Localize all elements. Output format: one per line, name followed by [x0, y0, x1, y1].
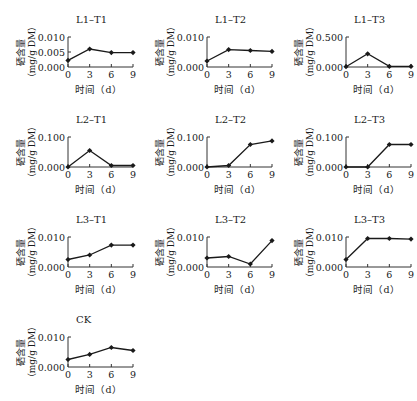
y-tick-label: 0.010 — [38, 332, 65, 343]
data-point-marker — [269, 49, 274, 54]
y-axis-label: 硒含量（mg/g DM） — [15, 322, 37, 382]
x-tick-label: 6 — [386, 269, 392, 280]
chart-title: L2–T3 — [354, 114, 385, 125]
svg-text:（mg/g DM）: （mg/g DM） — [166, 122, 176, 182]
svg-text:硒含量: 硒含量 — [293, 239, 304, 266]
y-tick-label: 0.000 — [38, 62, 65, 73]
x-tick-label: 9 — [269, 269, 275, 280]
chart-panel-l1-t2: L1–T20.0000.0100369时间（d）硒含量（mg/g DM） — [139, 0, 278, 100]
x-axis-label: 时间（d） — [75, 84, 121, 95]
chart-title: L1–T3 — [354, 14, 385, 25]
y-tick-label: 0.000 — [177, 262, 204, 273]
data-point-marker — [109, 243, 114, 248]
x-axis-label: 时间（d） — [353, 284, 399, 295]
y-tick-label: 0.000 — [316, 262, 343, 273]
chart-panel-l3-t1: L3–T10.0000.0100369时间（d）硒含量（mg/g DM） — [0, 200, 139, 300]
y-tick-label: 0.010 — [38, 232, 65, 243]
x-axis-label: 时间（d） — [353, 84, 399, 95]
data-point-marker — [408, 237, 413, 242]
x-tick-label: 0 — [204, 69, 210, 80]
data-point-marker — [204, 58, 209, 63]
data-line — [346, 54, 411, 67]
svg-text:硒含量: 硒含量 — [293, 139, 304, 166]
y-tick-label: 0.005 — [38, 47, 65, 58]
y-axis-label: 硒含量（mg/g DM） — [15, 22, 37, 82]
y-tick-label: 0.000 — [316, 162, 343, 173]
x-tick-label: 3 — [226, 269, 232, 280]
data-point-marker — [269, 138, 274, 143]
svg-text:硒含量: 硒含量 — [15, 239, 26, 266]
x-tick-label: 9 — [130, 69, 136, 80]
x-tick-label: 0 — [65, 369, 71, 380]
y-tick-label: 0.000 — [177, 162, 204, 173]
x-axis-label: 时间（d） — [214, 184, 260, 195]
data-line — [68, 151, 133, 168]
chart-title: L2–T2 — [215, 114, 246, 125]
chart-panel-l2-t1: L2–T10.0000.1000369时间（d）硒含量（mg/g DM） — [0, 100, 139, 200]
data-line — [207, 141, 272, 167]
data-line — [68, 348, 133, 360]
svg-text:硒含量: 硒含量 — [293, 39, 304, 66]
x-tick-label: 6 — [386, 169, 392, 180]
data-point-marker — [226, 254, 231, 259]
chart-title: L1–T1 — [76, 14, 107, 25]
x-tick-label: 0 — [343, 169, 349, 180]
chart-panel-l2-t2: L2–T20.0000.1000369时间（d）硒含量（mg/g DM） — [139, 100, 278, 200]
y-tick-label: 0.010 — [38, 32, 65, 43]
x-tick-label: 6 — [108, 169, 114, 180]
svg-text:（mg/g DM）: （mg/g DM） — [166, 222, 176, 282]
svg-text:（mg/g DM）: （mg/g DM） — [27, 322, 37, 382]
x-tick-label: 3 — [87, 69, 93, 80]
chart-panel-l1-t1: L1–T10.0000.0050.0100369时间（d）硒含量（mg/g DM… — [0, 0, 139, 100]
x-tick-label: 3 — [365, 69, 371, 80]
chart-panel-ck: CK0.0000.0100369时间（d）硒含量（mg/g DM） — [0, 300, 139, 400]
svg-text:硒含量: 硒含量 — [154, 139, 165, 166]
y-axis-label: 硒含量（mg/g DM） — [293, 22, 315, 82]
x-tick-label: 9 — [408, 169, 414, 180]
y-axis-label: 硒含量（mg/g DM） — [293, 222, 315, 282]
svg-text:硒含量: 硒含量 — [15, 339, 26, 366]
chart-title: L3–T1 — [76, 214, 107, 225]
svg-text:硒含量: 硒含量 — [154, 239, 165, 266]
data-point-marker — [109, 345, 114, 350]
x-tick-label: 9 — [130, 369, 136, 380]
chart-panel-l3-t2: L3–T20.0000.0100369时间（d）硒含量（mg/g DM） — [139, 200, 278, 300]
y-tick-label: 0.010 — [177, 232, 204, 243]
x-tick-label: 3 — [226, 169, 232, 180]
data-point-marker — [130, 243, 135, 248]
y-tick-label: 0.000 — [316, 62, 343, 73]
x-tick-label: 0 — [65, 69, 71, 80]
x-tick-label: 3 — [87, 169, 93, 180]
x-tick-label: 3 — [365, 169, 371, 180]
y-tick-label: 0.100 — [316, 132, 343, 143]
svg-text:（mg/g DM）: （mg/g DM） — [27, 22, 37, 82]
svg-text:（mg/g DM）: （mg/g DM） — [27, 222, 37, 282]
x-tick-label: 9 — [130, 169, 136, 180]
data-point-marker — [248, 48, 253, 53]
y-axis-label: 硒含量（mg/g DM） — [154, 122, 176, 182]
x-tick-label: 9 — [408, 69, 414, 80]
y-tick-label: 0.500 — [316, 32, 343, 43]
svg-text:硒含量: 硒含量 — [15, 139, 26, 166]
x-tick-label: 0 — [204, 269, 210, 280]
data-point-marker — [65, 257, 70, 262]
data-point-marker — [109, 50, 114, 55]
chart-panel-l3-t3: L3–T30.0000.0100369时间（d）硒含量（mg/g DM） — [278, 200, 417, 300]
data-point-marker — [130, 348, 135, 353]
svg-text:硒含量: 硒含量 — [15, 39, 26, 66]
svg-text:（mg/g DM）: （mg/g DM） — [305, 222, 315, 282]
x-axis-label: 时间（d） — [214, 284, 260, 295]
data-point-marker — [226, 47, 231, 52]
y-tick-label: 0.000 — [38, 362, 65, 373]
svg-text:（mg/g DM）: （mg/g DM） — [305, 122, 315, 182]
data-point-marker — [65, 357, 70, 362]
chart-title: L3–T3 — [354, 214, 385, 225]
y-axis-label: 硒含量（mg/g DM） — [293, 122, 315, 182]
x-tick-label: 9 — [269, 69, 275, 80]
data-line — [346, 239, 411, 260]
x-axis-label: 时间（d） — [75, 184, 121, 195]
data-point-marker — [204, 255, 209, 260]
y-axis-label: 硒含量（mg/g DM） — [15, 222, 37, 282]
x-tick-label: 3 — [87, 269, 93, 280]
x-tick-label: 0 — [343, 69, 349, 80]
